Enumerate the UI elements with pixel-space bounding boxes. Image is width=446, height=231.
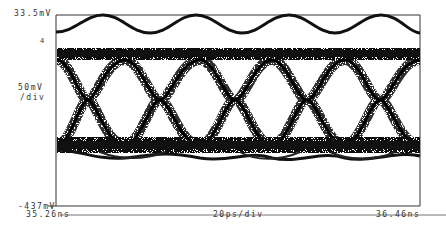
y-scale-label: 50mV (18, 83, 43, 92)
clock-trace (56, 15, 420, 33)
x-right-label: 36.46ns (376, 210, 420, 219)
y-marker-label: 4 (40, 37, 46, 45)
x-scale-label: 20ps/div (213, 210, 264, 219)
y-scale-unit: /div (20, 93, 45, 102)
oscilloscope-plot (0, 0, 446, 231)
x-left-label: 35.26ns (26, 210, 70, 219)
y-top-label: 33.5mV (14, 9, 52, 18)
